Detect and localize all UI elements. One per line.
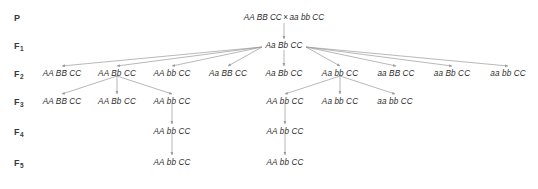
f4-genotype: AA bb CC	[154, 127, 191, 136]
cross-symbol: ×	[282, 13, 290, 22]
genetic-cross-diagram: P F1 F2 F3 F4 F5 AA BB CC×aa bb CC Aa Bb…	[0, 0, 538, 189]
f4-genotype: AA bb CC	[267, 127, 304, 136]
f1-genotype: Aa Bb CC	[265, 41, 302, 50]
f3-genotype: AA Bb CC	[98, 97, 136, 106]
f2-genotype: aa BB CC	[377, 69, 414, 78]
f2-genotype: AA Bb CC	[98, 69, 136, 78]
f2-genotype: AA bb CC	[154, 69, 191, 78]
generation-label-f4: F4	[14, 127, 24, 137]
generation-label-f2: F2	[14, 69, 24, 79]
f2-genotype: AA BB CC	[43, 69, 82, 78]
generation-label-f5: F5	[14, 158, 24, 168]
f2-genotype: aa Bb CC	[434, 69, 470, 78]
f5-genotype: AA bb CC	[267, 158, 304, 167]
f3-genotype: AA bb CC	[267, 97, 304, 106]
f2-genotype: Aa Bb CC	[265, 69, 302, 78]
f2-genotype: aa bb CC	[490, 69, 525, 78]
f5-genotype: AA bb CC	[154, 158, 191, 167]
f3-genotype: AA bb CC	[154, 97, 191, 106]
f3-genotype: AA BB CC	[43, 97, 82, 106]
f2-genotype: Aa BB CC	[209, 69, 247, 78]
f2-genotype: Aa bb CC	[322, 69, 358, 78]
p-parent-2-genotype: aa bb CC	[290, 13, 325, 22]
p-parent-1-genotype: AA BB CC	[244, 13, 282, 22]
p-generation-cross: AA BB CC×aa bb CC	[244, 13, 324, 22]
generation-label-p: P	[14, 13, 20, 23]
f3-genotype: aa bb CC	[377, 97, 412, 106]
generation-label-f1: F1	[14, 41, 24, 51]
f3-genotype: Aa bb CC	[322, 97, 358, 106]
generation-label-f3: F3	[14, 97, 24, 107]
